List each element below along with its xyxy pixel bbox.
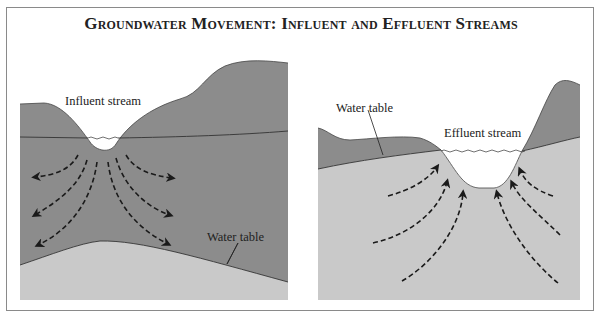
influent-panel: Influent stream Water table: [20, 61, 288, 300]
influent-stream-label: Influent stream: [65, 94, 141, 108]
water-table-label-left: Water table: [207, 230, 264, 244]
water-table-label-right: Water table: [336, 101, 393, 115]
groundwater-diagram: Influent stream Water table Water table …: [0, 0, 602, 320]
effluent-stream-label: Effluent stream: [444, 126, 521, 140]
effluent-panel: Water table Effluent stream: [318, 80, 580, 300]
